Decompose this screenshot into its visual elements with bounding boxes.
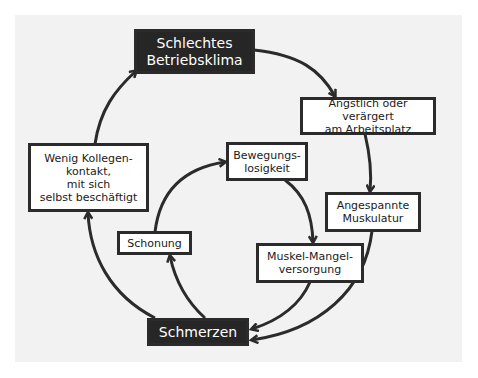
arrow-aengstlich-to-muskulatur xyxy=(365,134,371,191)
arrow-schonung-to-bewegung xyxy=(155,162,225,232)
node-angespannte-muskulatur: Angespannte Muskulatur xyxy=(325,192,421,232)
arrow-schmerzen-to-kollegen xyxy=(88,213,155,318)
node-bewegungslosigkeit: Bewegungs- losigkeit xyxy=(226,142,308,181)
arrow-schmerzen-to-schonung xyxy=(170,256,205,318)
arrow-bewegung-to-versorgung xyxy=(285,180,313,242)
node-aengstlich-veraergert: Ängstlich oder verärgert am Arbeitsplatz xyxy=(300,97,436,135)
node-schlechtes-betriebsklima: Schlechtes Betriebsklima xyxy=(134,29,255,74)
node-muskel-mangel-versorgung: Muskel-Mangel- versorgung xyxy=(256,243,364,283)
arrow-betriebsklima-to-aengstlich xyxy=(254,50,335,96)
arrow-kollegen-to-betriebsklima xyxy=(95,71,136,144)
node-wenig-kollegenkontakt: Wenig Kollegen- kontakt, mit sich selbst… xyxy=(28,143,149,212)
node-schmerzen: Schmerzen xyxy=(147,318,249,346)
arrow-versorgung-to-schmerzen xyxy=(252,282,310,329)
node-schonung: Schonung xyxy=(117,231,192,255)
